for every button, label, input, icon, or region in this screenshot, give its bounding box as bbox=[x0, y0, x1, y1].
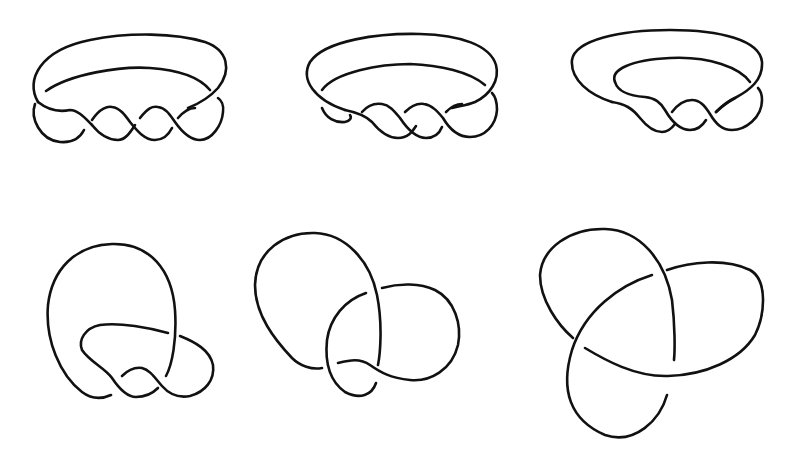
knot-1 bbox=[34, 35, 227, 143]
knot-6 bbox=[540, 229, 763, 437]
knot-4 bbox=[48, 244, 214, 398]
knot-diagram-figure bbox=[0, 0, 801, 454]
knot-3 bbox=[572, 30, 762, 132]
knot-5 bbox=[255, 233, 459, 396]
knot-2 bbox=[307, 34, 497, 138]
